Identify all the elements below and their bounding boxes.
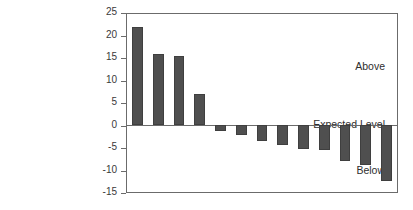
bar bbox=[298, 125, 309, 149]
bar bbox=[360, 125, 371, 165]
y-axis-tick-label: -15 bbox=[103, 186, 117, 197]
y-axis-tick-mark bbox=[121, 103, 126, 104]
y-axis-tick-mark bbox=[121, 13, 126, 14]
bar bbox=[319, 125, 330, 149]
y-axis-tick-mark bbox=[121, 126, 126, 127]
bars-layer bbox=[127, 14, 397, 192]
y-axis-tick-mark bbox=[121, 81, 126, 82]
bar bbox=[381, 125, 392, 181]
bar bbox=[215, 125, 226, 131]
y-axis: 25 20 15 10 5 0 -5 -10 bbox=[0, 13, 126, 193]
y-axis-tick-label: -10 bbox=[103, 164, 117, 175]
bar bbox=[132, 27, 143, 125]
bar bbox=[277, 125, 288, 145]
y-axis-tick-label: 25 bbox=[106, 6, 117, 17]
bar bbox=[236, 125, 247, 135]
bar-chart-figure: 25 20 15 10 5 0 -5 -10 bbox=[0, 0, 413, 210]
bar bbox=[340, 125, 351, 161]
bar bbox=[153, 54, 164, 125]
y-axis-tick-mark bbox=[121, 171, 126, 172]
bar bbox=[257, 125, 268, 141]
y-axis-tick-mark bbox=[121, 36, 126, 37]
y-axis-tick-mark bbox=[121, 193, 126, 194]
bar bbox=[194, 94, 205, 125]
y-axis-tick-label: 20 bbox=[106, 29, 117, 40]
y-axis-tick-mark bbox=[121, 148, 126, 149]
y-axis-tick-label: 15 bbox=[106, 51, 117, 62]
y-axis-tick-label: 0 bbox=[111, 119, 117, 130]
bar bbox=[174, 56, 185, 125]
y-axis-tick-mark bbox=[121, 58, 126, 59]
y-axis-tick-label: 10 bbox=[106, 74, 117, 85]
y-axis-tick-label: -5 bbox=[108, 141, 117, 152]
y-axis-tick-label: 5 bbox=[111, 96, 117, 107]
